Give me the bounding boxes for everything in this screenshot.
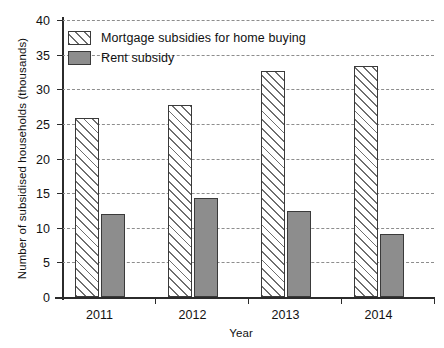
bar-2014-mortgage [354,66,378,297]
bar-2013-mortgage [261,71,285,297]
bar-2011-rent [101,214,125,297]
gridline [62,193,434,194]
bar-2012-mortgage [168,105,192,298]
bar-2012-rent [194,198,218,297]
x-axis-line [55,297,434,299]
y-tick-label: 20 [36,153,50,167]
x-tick-label: 2014 [365,308,393,322]
y-tick-label: 15 [36,187,50,201]
y-tick-mark: 0 [57,297,63,298]
legend-swatch-mortgage [68,31,91,45]
x-tick-label: 2011 [86,308,113,322]
bar-chart: Number of subsidised households (thousan… [0,0,444,348]
y-tick-label: 10 [36,222,50,236]
y-tick-mark: 40 [57,20,63,21]
x-tick-mark [434,297,435,304]
chart-legend: Mortgage subsidies for home buyingRent s… [68,29,306,69]
gridline [62,20,434,21]
gridline [62,159,434,160]
x-tick-label: 2013 [272,308,300,322]
bar-2013-rent [287,211,311,297]
y-tick-label: 25 [36,118,50,132]
y-tick-mark: 20 [57,159,63,160]
legend-swatch-rent [68,51,91,65]
x-tick-mark [248,297,249,304]
legend-item: Mortgage subsidies for home buying [68,29,306,47]
legend-label: Mortgage subsidies for home buying [101,31,306,45]
legend-item: Rent subsidy [68,49,306,67]
x-tick-mark [155,297,156,304]
y-tick-label: 35 [36,49,50,63]
y-tick-mark: 25 [57,124,63,125]
y-tick-label: 5 [43,256,50,270]
bar-2011-mortgage [75,118,99,297]
x-tick-label: 2012 [179,308,207,322]
y-axis-title: Number of subsidised households (thousan… [16,9,29,309]
y-tick-mark: 5 [57,262,63,263]
gridline [62,89,434,90]
y-tick-mark: 10 [57,228,63,229]
y-tick-mark: 15 [57,193,63,194]
gridline [62,124,434,125]
y-tick-mark: 30 [57,89,63,90]
y-tick-label: 40 [36,14,50,28]
legend-label: Rent subsidy [101,51,174,65]
bar-2014-rent [380,234,404,297]
x-tick-mark [341,297,342,304]
y-tick-mark: 35 [57,55,63,56]
y-tick-label: 0 [43,291,50,305]
x-axis-title: Year [48,327,434,339]
y-tick-label: 30 [36,83,50,97]
